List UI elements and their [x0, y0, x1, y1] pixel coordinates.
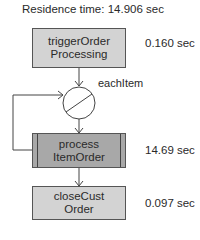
node-time-close: 0.097 sec [145, 197, 195, 209]
node-label: closeCust Order [54, 190, 105, 216]
node-close-cust-order[interactable]: closeCust Order [32, 186, 126, 220]
subprocess-bar-left [37, 134, 38, 167]
node-time-trigger: 0.160 sec [145, 37, 195, 49]
node-label: process ItemOrder [53, 138, 105, 164]
node-trigger-order-processing[interactable]: triggerOrder Processing [32, 28, 126, 68]
node-process-item-order[interactable]: process ItemOrder [32, 133, 126, 168]
subprocess-bar-right [120, 134, 121, 167]
loop-iterator-icon [63, 87, 95, 119]
node-time-process: 14.69 sec [145, 144, 195, 156]
loop-label: eachItem [98, 77, 143, 89]
node-label: triggerOrder Processing [48, 35, 110, 61]
